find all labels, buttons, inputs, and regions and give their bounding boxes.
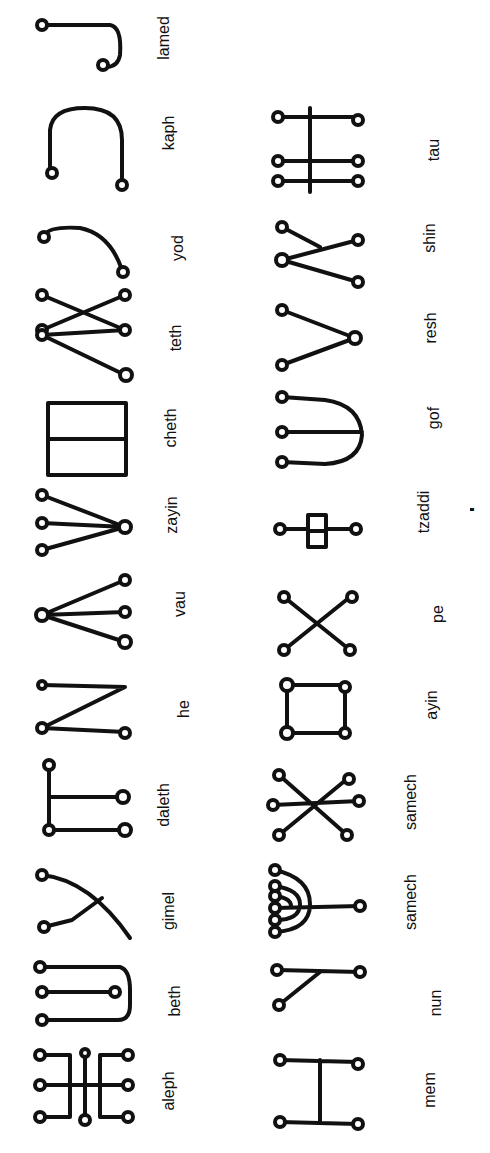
- glyph-mem: [270, 1050, 370, 1135]
- label-yod: yod: [169, 235, 187, 261]
- glyph-gof: [270, 390, 370, 470]
- glyph-teth: [30, 285, 140, 385]
- glyph-cheth: [45, 400, 130, 478]
- glyph-ayin: [275, 675, 360, 745]
- label-gof: gof: [425, 407, 443, 429]
- glyph-samech-menorah: [265, 860, 370, 940]
- label-kaph: kaph: [160, 116, 178, 151]
- label-vau: vau: [171, 591, 189, 617]
- label-cheth: cheth: [161, 408, 179, 447]
- glyph-he: [30, 675, 140, 750]
- glyph-resh: [270, 300, 370, 375]
- label-gimel: gimel: [160, 892, 178, 930]
- label-resh: resh: [421, 312, 439, 343]
- glyph-yod: [30, 222, 130, 282]
- glyph-pe: [270, 585, 370, 660]
- glyph-samech-star: [265, 765, 370, 845]
- label-ayin: ayin: [422, 690, 440, 719]
- label-tau: tau: [425, 139, 443, 161]
- label-tzaddi: tzaddi: [415, 491, 433, 534]
- label-samech-1: samech: [402, 774, 420, 830]
- glyph-beth: [30, 960, 140, 1030]
- label-he: he: [175, 700, 193, 718]
- label-beth: beth: [165, 985, 183, 1016]
- glyph-kaph: [40, 100, 130, 200]
- label-shin: shin: [420, 223, 438, 252]
- glyph-gimel: [30, 860, 140, 955]
- glyph-shin: [270, 215, 370, 290]
- glyph-lamed: [30, 15, 130, 75]
- glyph-tzaddi: [270, 505, 370, 545]
- glyph-daleth: [35, 755, 140, 845]
- glyph-aleph: [30, 1045, 140, 1135]
- label-pe: pe: [429, 605, 447, 623]
- label-nun: nun: [427, 990, 445, 1017]
- glyph-vau: [30, 570, 140, 655]
- label-aleph: aleph: [159, 1071, 177, 1110]
- label-samech-2: samech: [402, 874, 420, 930]
- label-daleth: daleth: [155, 783, 173, 827]
- caption: Malachim Script: [470, 492, 475, 661]
- label-lamed: lamed: [155, 16, 173, 60]
- caption-clip: Malachim Script: [470, 0, 490, 1153]
- label-zayin: zayin: [162, 496, 180, 533]
- label-teth: teth: [167, 325, 185, 352]
- label-mem: mem: [421, 1072, 439, 1108]
- glyph-zayin: [30, 485, 140, 555]
- glyph-nun: [265, 960, 370, 1020]
- glyph-tau: [270, 100, 370, 200]
